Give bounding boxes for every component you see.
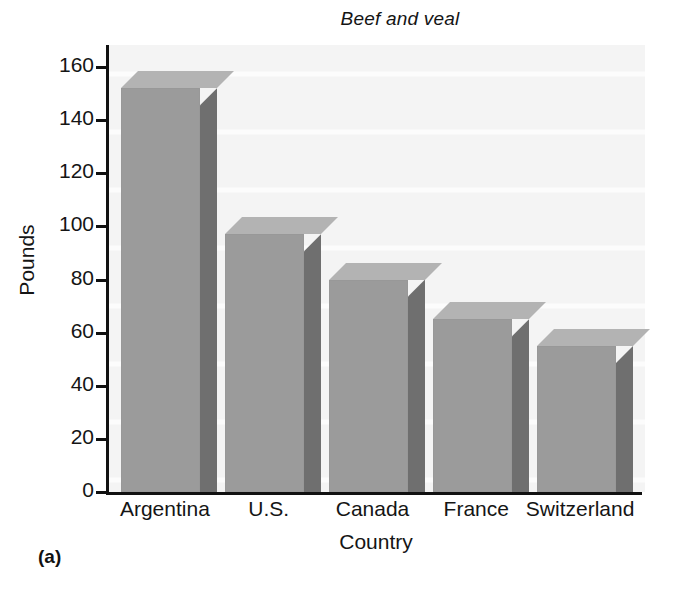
y-axis-tick xyxy=(96,279,108,282)
y-axis-tick xyxy=(96,225,108,228)
figure-panel: Beef and veal 020406080100120140160 Poun… xyxy=(0,0,678,598)
bar xyxy=(329,263,408,493)
y-axis-tick xyxy=(96,172,108,175)
y-axis-tick-label-text: 80 xyxy=(50,266,94,290)
y-axis-tick-label-text: 20 xyxy=(50,425,94,449)
bar-top-face xyxy=(225,217,321,234)
y-axis-tick-label: 40 xyxy=(38,372,94,396)
bar-side-face xyxy=(304,234,321,492)
bar-front-face xyxy=(121,88,200,492)
y-axis-tick xyxy=(96,385,108,388)
bar-side-face xyxy=(408,280,425,493)
bar-top-face-surface xyxy=(121,71,234,88)
y-axis-line xyxy=(106,45,109,495)
y-axis-tick xyxy=(96,66,108,69)
bar xyxy=(225,217,304,492)
y-axis-tick-label-text: 40 xyxy=(50,372,94,396)
bar-top-face xyxy=(433,302,529,319)
y-axis-tick-label: 80 xyxy=(38,266,94,290)
bar-top-face-surface xyxy=(433,302,546,319)
x-axis-tick-label: Switzerland xyxy=(500,497,660,521)
y-axis-tick-label: 20 xyxy=(38,425,94,449)
y-axis-tick-label: 100 xyxy=(38,212,94,236)
bar-top-face xyxy=(537,329,633,346)
y-axis-tick-label-text: 120 xyxy=(50,159,94,183)
y-axis-tick-label: 140 xyxy=(38,106,94,130)
y-axis-tick-label-text: 140 xyxy=(50,106,94,130)
y-axis-tick-label: 160 xyxy=(38,53,94,77)
y-axis-tick xyxy=(96,119,108,122)
bar-side-face xyxy=(616,346,633,492)
y-axis-tick xyxy=(96,491,108,494)
bar-side-face xyxy=(200,88,217,492)
bar-front-face xyxy=(329,280,408,493)
bar-side-face xyxy=(512,319,529,492)
bar-top-face-surface xyxy=(537,329,650,346)
y-axis-tick-label-text: 160 xyxy=(50,53,94,77)
y-axis-tick-label-text: 100 xyxy=(50,212,94,236)
x-axis-line xyxy=(106,492,642,495)
y-axis-tick xyxy=(96,438,108,441)
y-axis-tick-label-text: 60 xyxy=(50,319,94,343)
bar xyxy=(433,302,512,492)
y-axis-tick-label: 120 xyxy=(38,159,94,183)
y-axis-tick xyxy=(96,332,108,335)
bar xyxy=(537,329,616,492)
x-axis-title: Country xyxy=(107,530,645,554)
bar-top-face xyxy=(329,263,425,280)
y-axis-tick-label: 60 xyxy=(38,319,94,343)
y-axis-title: Pounds xyxy=(15,205,39,315)
bar xyxy=(121,71,200,492)
bar-front-face xyxy=(433,319,512,492)
bar-front-face xyxy=(225,234,304,492)
bar-top-face xyxy=(121,71,217,88)
figure-caption: (a) xyxy=(38,546,61,568)
bar-top-face-surface xyxy=(329,263,442,280)
bar-front-face xyxy=(537,346,616,492)
bar-top-face-surface xyxy=(225,217,338,234)
chart-title: Beef and veal xyxy=(180,8,620,30)
